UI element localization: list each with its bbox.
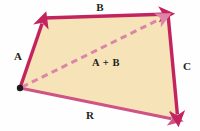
vector-label-a: A <box>14 51 22 62</box>
vector-label-b: B <box>96 2 104 13</box>
vector-diagram: A B C R A + B <box>0 0 200 131</box>
origin-dot <box>17 85 23 91</box>
vector-label-r: R <box>86 110 94 121</box>
vector-label-a-plus-b: A + B <box>92 58 120 69</box>
vector-label-c: C <box>183 61 191 72</box>
